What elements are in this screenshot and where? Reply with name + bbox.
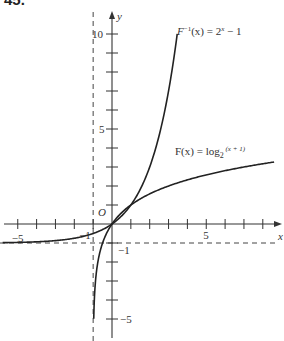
x-axis-arrow-icon — [274, 221, 282, 227]
y-tick-label: 10 — [92, 28, 104, 40]
log-function-label: F(x) = log2 (x + 1) — [175, 145, 246, 160]
y-axis-arrow-icon — [109, 11, 115, 19]
function-plot: −5−15105−1−5OxyF−1(x) = 2x − 1F(x) = log… — [0, 0, 284, 341]
origin-label: O — [98, 206, 106, 218]
inverse-function-label: F−1(x) = 2x − 1 — [176, 25, 242, 38]
log-function-curve — [94, 162, 274, 319]
asymptotes — [0, 12, 278, 341]
curves — [3, 34, 274, 319]
x-tick-label: −1 — [79, 229, 91, 241]
x-axis-label: x — [277, 230, 283, 242]
x-tick-label: −5 — [12, 232, 24, 244]
x-tick-label: 5 — [203, 229, 209, 241]
inverse-function-curve — [3, 34, 178, 243]
y-tick-label: −1 — [118, 244, 130, 256]
axes — [4, 11, 282, 338]
y-axis-label: y — [116, 10, 122, 22]
y-tick-label: 5 — [99, 123, 105, 135]
y-tick-label: −5 — [120, 313, 132, 325]
